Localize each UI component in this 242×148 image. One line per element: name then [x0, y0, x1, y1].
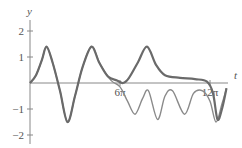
chart-container: 21−1−2 6π12π y t [0, 0, 242, 148]
axes: 21−1−2 6π12π y t [12, 5, 238, 144]
series-layer [30, 47, 227, 122]
x-axis-label: t [234, 69, 238, 81]
y-tick-label: −1 [12, 103, 24, 115]
y-tick-label: 2 [19, 25, 25, 37]
y-tick-label: 1 [19, 51, 25, 63]
y-axis-label: y [26, 5, 32, 17]
y-tick-label: −2 [12, 129, 24, 141]
line-chart: 21−1−2 6π12π y t [0, 0, 242, 148]
series-line-solution-1 [30, 47, 227, 122]
